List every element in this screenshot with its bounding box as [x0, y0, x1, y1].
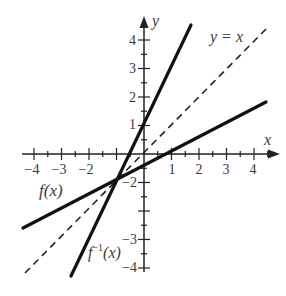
y-tick-label: 4: [129, 33, 136, 48]
x-axis-arrow-icon: [268, 150, 280, 159]
y-tick-label: 3: [129, 61, 136, 76]
y-axis-label: y: [150, 12, 160, 30]
x-tick-label: 3: [223, 162, 230, 177]
x-axis-label: x: [263, 131, 271, 148]
y-tick-label: −3: [122, 232, 137, 247]
identity-label: y = x: [208, 28, 243, 46]
x-tick-label: 2: [196, 162, 203, 177]
function-inverse-diagram: −4 −3 −2 1 2 3 4 4 3 2 1 −2 −3 −4 y x y …: [0, 0, 286, 296]
y-tick-label: 1: [129, 117, 136, 132]
f-label: f(x): [39, 181, 63, 200]
x-tick-label: −3: [52, 162, 67, 177]
x-tick-label: −2: [79, 162, 94, 177]
y-tick-label: −4: [122, 260, 137, 275]
y-tick-label: 2: [129, 90, 136, 105]
x-tick-label: 4: [250, 162, 257, 177]
y-axis-arrow-icon: [140, 16, 149, 28]
x-tick-labels: −4 −3 −2 1 2 3 4: [25, 162, 257, 177]
f-inverse-label: f−1(x): [88, 242, 121, 262]
x-tick-label: −4: [25, 162, 40, 177]
x-tick-label: 1: [169, 162, 176, 177]
